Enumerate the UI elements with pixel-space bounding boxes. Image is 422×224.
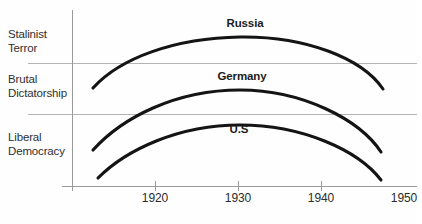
series-label-germany: Germany xyxy=(198,70,286,82)
x-axis-label-1920: 1920 xyxy=(131,191,179,205)
x-axis-label-1930: 1930 xyxy=(214,191,262,205)
y-axis-label-stalinist-terror: Stalinist Terror xyxy=(8,28,47,55)
y-axis-label-brutal-dictatorship: Brutal Dictatorship xyxy=(8,73,67,100)
y-axis-label-brutal-dictatorship-line2: Dictatorship xyxy=(8,87,67,101)
x-axis-label-1950: 1950 xyxy=(380,191,422,205)
y-axis-label-stalinist-terror-line1: Stalinist xyxy=(8,28,47,42)
y-axis-label-brutal-dictatorship-line1: Brutal xyxy=(8,73,67,87)
y-axis-label-stalinist-terror-line2: Terror xyxy=(8,42,47,56)
series-label-us: U.S xyxy=(209,123,269,135)
y-axis-label-liberal-democracy-line2: Democracy xyxy=(8,145,65,159)
y-axis-label-liberal-democracy-line1: Liberal xyxy=(8,131,65,145)
series-label-russia: Russia xyxy=(201,17,289,29)
x-axis-label-1940: 1940 xyxy=(297,191,345,205)
series-curve-germany xyxy=(93,90,381,152)
y-axis-label-liberal-democracy: Liberal Democracy xyxy=(8,131,65,158)
